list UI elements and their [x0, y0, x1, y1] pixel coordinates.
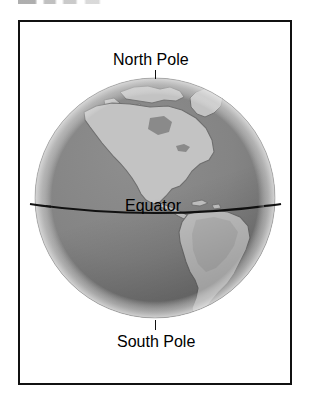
north-pole-tick-mark: [155, 70, 156, 79]
label-south-pole: South Pole: [117, 334, 195, 350]
south-pole-tick-mark: [155, 320, 156, 330]
label-north-pole: North Pole: [113, 52, 189, 68]
scan-artifact-strip: [18, 0, 140, 4]
label-equator: Equator: [125, 198, 181, 214]
